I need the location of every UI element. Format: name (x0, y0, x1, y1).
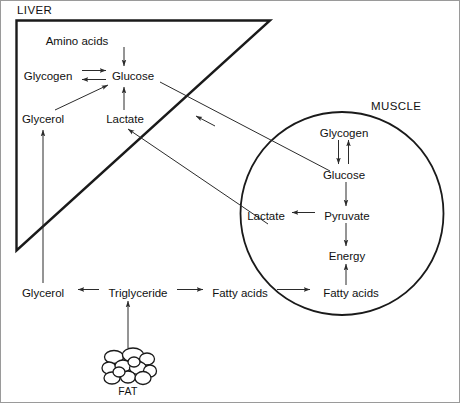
node-muscle-fatty-acids: Fatty acids (323, 287, 379, 299)
edge-liver-glycerol-to-glucose (55, 85, 108, 110)
node-liver-glycogen: Glycogen (24, 70, 73, 82)
node-muscle-energy: Energy (329, 250, 366, 262)
edge-liver-glucose-to-muscle-glucose-head (196, 116, 215, 126)
node-blood-triglyceride: Triglyceride (108, 287, 167, 299)
node-liver-glycerol: Glycerol (22, 113, 64, 125)
node-liver-amino-acids: Amino acids (46, 35, 109, 47)
node-liver-glucose: Glucose (112, 70, 154, 82)
node-labels: Amino acids Glycogen Glucose Glycerol La… (22, 35, 379, 397)
node-muscle-lactate: Lactate (247, 210, 285, 222)
node-liver-lactate: Lactate (106, 113, 144, 125)
liver-compartment-outline (17, 21, 271, 251)
edge-liver-glucose-to-muscle-glucose (160, 82, 330, 171)
node-fat-store-label: FAT (118, 385, 138, 397)
node-muscle-pyruvate: Pyruvate (324, 210, 369, 222)
node-blood-glycerol: Glycerol (22, 287, 64, 299)
fat-cell-cluster-icon (102, 348, 157, 385)
diagram-page: LIVER MUSCLE (0, 0, 460, 403)
node-blood-fatty-acids: Fatty acids (212, 287, 268, 299)
liver-compartment-label: LIVER (17, 4, 52, 16)
node-muscle-glycogen: Glycogen (320, 127, 369, 139)
metabolism-diagram: LIVER MUSCLE (0, 0, 460, 403)
muscle-compartment-label: MUSCLE (371, 100, 421, 112)
node-muscle-glucose: Glucose (323, 169, 365, 181)
